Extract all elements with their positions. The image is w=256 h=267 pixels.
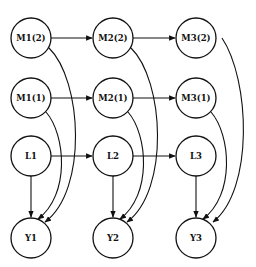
node-M2_1: M2(1) <box>93 78 133 118</box>
node-L3: L3 <box>176 136 216 176</box>
node-label: Y2 <box>106 233 119 243</box>
node-M3_2: M3(2) <box>176 18 216 58</box>
node-label: Y1 <box>24 233 37 243</box>
node-M2_2: M2(2) <box>93 18 133 58</box>
node-label: M1(1) <box>16 93 45 103</box>
node-M3_1: M3(1) <box>176 78 216 118</box>
node-Y3: Y3 <box>176 218 216 258</box>
curved-edges <box>38 38 243 222</box>
node-label: M1(2) <box>16 33 45 43</box>
edge-M3_2-Y3 <box>213 38 243 222</box>
node-Y2: Y2 <box>93 218 133 258</box>
node-label: L3 <box>190 151 202 161</box>
node-label: M2(2) <box>98 33 127 43</box>
node-label: M3(2) <box>181 33 210 43</box>
edge-M2_2-Y2 <box>127 48 158 222</box>
node-M1_1: M1(1) <box>11 78 51 118</box>
node-M1_2: M1(2) <box>11 18 51 58</box>
node-L1: L1 <box>11 136 51 176</box>
node-L2: L2 <box>93 136 133 176</box>
node-label: L2 <box>107 151 119 161</box>
node-Y1: Y1 <box>11 218 51 258</box>
dag-diagram: M1(2) M2(2) M3(2) M1(1) M2(1) M3(1) L1 L… <box>0 0 256 267</box>
node-label: L1 <box>25 151 37 161</box>
node-label: Y3 <box>189 233 202 243</box>
node-label: M3(1) <box>181 93 210 103</box>
node-label: M2(1) <box>98 93 127 103</box>
edge-M1_2-Y1 <box>45 48 76 222</box>
